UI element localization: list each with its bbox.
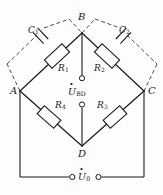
node-label-a: A — [10, 85, 17, 96]
junction-a — [19, 90, 21, 92]
node-label-b: B — [78, 11, 85, 22]
junction-c — [143, 90, 145, 92]
output-voltage-label-ubd-subscript: BD — [76, 90, 86, 97]
capacitor-branch-c1 — [7, 19, 82, 91]
component-label-r2-text: R — [94, 63, 101, 73]
component-label-r4: R4 — [55, 100, 66, 110]
terminal-ubd-upper[interactable] — [79, 76, 84, 81]
terminal-ubd-lower[interactable] — [79, 102, 84, 107]
node-label-c: C — [148, 85, 156, 96]
terminal-u0-left[interactable] — [70, 174, 75, 179]
node-label-d: D — [78, 148, 86, 159]
component-label-r3: R3 — [97, 100, 108, 110]
component-label-r1-subscript: 1 — [65, 66, 69, 73]
source-voltage-label-u0: U0 — [78, 171, 90, 182]
junction-b — [81, 32, 83, 34]
output-voltage-label-ubd-text: U — [68, 86, 76, 97]
source-voltage-label-u0-subscript: 0 — [86, 175, 90, 182]
phasor-dot-u0: U — [78, 171, 86, 182]
circuit-schematic-canvas — [0, 0, 163, 195]
output-voltage-label-ubd: UBD — [68, 86, 86, 97]
junction-d — [81, 145, 83, 147]
phasor-dot-ubd: U — [68, 86, 76, 97]
dashed-wire-top-right-corner-to-c2 — [95, 19, 120, 28]
component-label-r2-subscript: 2 — [101, 66, 105, 73]
terminal-u0-right[interactable] — [96, 174, 101, 179]
component-label-r4-subscript: 4 — [62, 103, 66, 110]
source-voltage-label-u0-text: U — [78, 171, 86, 182]
component-label-c1-subscript: 1 — [35, 28, 39, 35]
component-label-c1: C1 — [28, 25, 39, 35]
component-label-c2-text: C — [119, 25, 126, 35]
component-label-r2: R2 — [94, 63, 105, 73]
component-label-r1: R1 — [58, 63, 69, 73]
component-label-c2: C2 — [119, 25, 130, 35]
circuit-diagram: A B C D R1 R2 R3 R4 C1 C2 UBD U0 — [0, 0, 163, 195]
component-label-r1-text: R — [58, 63, 65, 73]
component-label-r4-text: R — [55, 100, 62, 110]
component-label-r3-subscript: 3 — [104, 103, 108, 110]
component-label-c2-subscript: 2 — [126, 28, 130, 35]
dashed-wire-left-corner-to-c1 — [7, 35, 37, 64]
component-label-r3-text: R — [97, 100, 104, 110]
component-label-c1-text: C — [28, 25, 35, 35]
dashed-wire-c1-to-top-left-corner — [44, 19, 69, 28]
dashed-wire-c2-to-right-corner — [127, 35, 157, 64]
